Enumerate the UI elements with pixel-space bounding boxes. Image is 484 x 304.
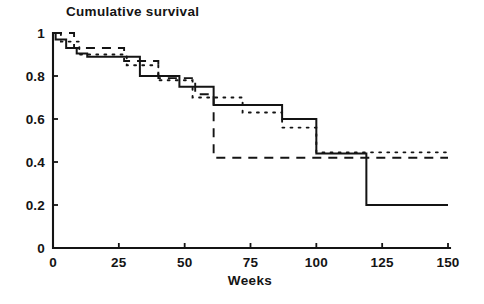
x-tick-label: 50 [177, 255, 192, 270]
x-tick-label: 25 [111, 255, 127, 270]
chart-canvas: 00.20.40.60.81 0255075100125150 Cumulati… [0, 0, 484, 304]
chart-title: Cumulative survival [66, 4, 199, 19]
y-tick-label: 1 [37, 26, 45, 41]
y-axis-tick-labels: 00.20.40.60.81 [26, 26, 46, 256]
x-axis-tick-labels: 0255075100125150 [49, 255, 459, 270]
survival-chart-figure: 00.20.40.60.81 0255075100125150 Cumulati… [0, 0, 484, 304]
survival-curves [53, 33, 448, 205]
axis-lines [53, 33, 450, 248]
x-axis-title: Weeks [228, 273, 273, 288]
plot-axes [53, 33, 450, 248]
x-tick-label: 0 [49, 255, 57, 270]
y-tick-label: 0.2 [26, 198, 45, 213]
survival-curve-dotted [53, 33, 448, 152]
survival-curve-dashed [53, 33, 448, 158]
x-tick-label: 100 [305, 255, 328, 270]
y-tick-label: 0 [37, 241, 45, 256]
y-tick-label: 0.8 [26, 69, 46, 84]
x-tick-label: 150 [436, 255, 459, 270]
y-tick-label: 0.4 [26, 155, 46, 170]
x-tick-label: 75 [243, 255, 259, 270]
survival-curve-solid [53, 33, 448, 205]
y-tick-label: 0.6 [26, 112, 46, 127]
x-tick-label: 125 [371, 255, 394, 270]
